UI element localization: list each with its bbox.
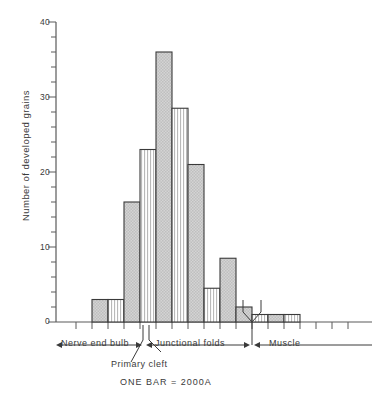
y-tick-label-30: 30 <box>28 92 50 102</box>
y-tick-label-10: 10 <box>28 242 50 252</box>
bar <box>124 202 140 322</box>
x-axis <box>56 322 372 329</box>
bar <box>284 315 300 323</box>
bar <box>252 315 268 323</box>
y-axis-label: Number of developed grains <box>20 61 31 251</box>
bar <box>204 288 220 322</box>
bar <box>108 300 124 323</box>
region-label-muscle: Muscle <box>269 338 301 348</box>
region-label-nerve-end-bulb: Nerve end bulb <box>61 338 129 348</box>
y-tick-label-40: 40 <box>28 17 50 27</box>
bar <box>140 150 156 323</box>
histogram-figure: Number of developed grains 40 30 20 10 0 <box>0 0 388 398</box>
y-tick-label-20: 20 <box>28 167 50 177</box>
bar-series <box>92 52 300 322</box>
bar <box>268 315 284 323</box>
bar <box>220 258 236 322</box>
bar <box>156 52 172 322</box>
annotation-primary-cleft: Primary cleft <box>111 359 168 369</box>
bar <box>92 300 108 323</box>
bar <box>172 108 188 322</box>
y-tick-label-0: 0 <box>28 316 50 326</box>
scale-caption: ONE BAR = 2000A <box>120 377 212 387</box>
region-label-junctional-folds: Junctional folds <box>155 338 225 348</box>
bar <box>188 165 204 323</box>
